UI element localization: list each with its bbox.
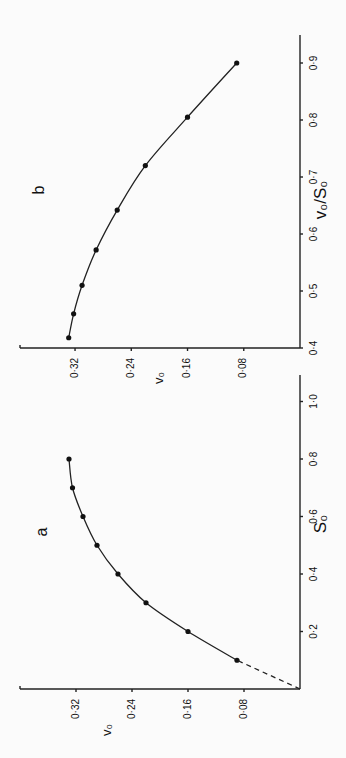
series-curve — [69, 63, 237, 338]
data-point — [71, 311, 76, 316]
data-point — [115, 571, 120, 576]
series-curve — [69, 459, 237, 660]
x-axis-label: S₀ — [311, 515, 330, 533]
data-point — [79, 283, 84, 288]
figure: 0·20·40·60·81·00·080·160·240·32S₀v₀a 0·4… — [0, 0, 346, 758]
y-tick-label: 0·08 — [238, 699, 249, 719]
x-axis-label: v₀/S₀ — [311, 181, 330, 220]
data-point — [185, 629, 190, 634]
x-tick-label: 0·5 — [308, 283, 319, 298]
y-tick-label: 0·32 — [69, 358, 80, 378]
x-tick-label: 0·6 — [308, 226, 319, 241]
panel-b: 0·40·50·60·70·80·90·080·160·240·32v₀/S₀v… — [20, 35, 330, 384]
x-tick-label: 0·4 — [308, 566, 319, 581]
extrapolation-dashed-line — [237, 660, 300, 689]
y-tick-label: 0·32 — [70, 699, 81, 719]
x-tick-label: 1·0 — [308, 394, 319, 409]
y-tick-label: 0·08 — [237, 358, 248, 378]
panel-title: a — [33, 527, 50, 536]
data-point — [143, 163, 148, 168]
panel-title: b — [30, 185, 47, 194]
y-tick-label: 0·16 — [181, 358, 192, 378]
data-point — [70, 485, 75, 490]
y-tick-label: 0·16 — [182, 699, 193, 719]
data-point — [66, 335, 71, 340]
panel-a: 0·20·40·60·81·00·080·160·240·32S₀v₀a — [20, 375, 330, 736]
data-point — [115, 207, 120, 212]
data-point — [143, 600, 148, 605]
y-axis-label: v₀ — [151, 372, 166, 384]
data-point — [234, 60, 239, 65]
data-point — [66, 456, 71, 461]
y-axis-label: v₀ — [99, 724, 114, 736]
data-point — [185, 115, 190, 120]
data-point — [80, 514, 85, 519]
y-tick-label: 0·24 — [125, 358, 136, 378]
x-tick-label: 0·8 — [308, 112, 319, 127]
data-point — [94, 543, 99, 548]
x-tick-label: 0·8 — [308, 451, 319, 466]
x-tick-label: 0·4 — [308, 340, 319, 355]
x-tick-label: 0·2 — [308, 624, 319, 639]
x-tick-label: 0·9 — [308, 55, 319, 70]
data-point — [94, 247, 99, 252]
data-point — [234, 658, 239, 663]
y-tick-label: 0·24 — [126, 699, 137, 719]
